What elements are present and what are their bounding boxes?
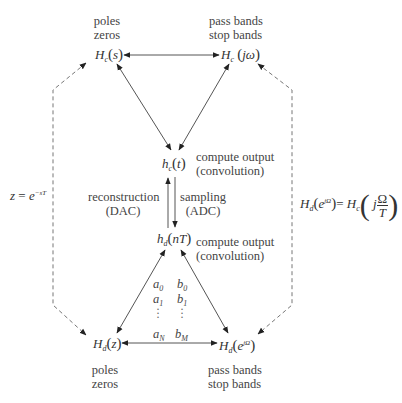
label-stop-bands-top: stop bands xyxy=(209,28,262,42)
node-hc-t: hc(t) xyxy=(162,156,186,176)
node-Hd-z: Hd(z) xyxy=(93,336,121,356)
vdots-b: ··· xyxy=(180,307,184,319)
label-stop-bands-bottom: stop bands xyxy=(208,377,261,391)
label-reconstruction: reconstruction xyxy=(88,190,158,204)
vdots-a: ··· xyxy=(156,307,160,319)
label-convolution-1: (convolution) xyxy=(196,164,264,178)
label-pass-bands-bottom: pass bands xyxy=(208,363,262,377)
dashed-arrow-left xyxy=(53,63,86,335)
label-dac: (DAC) xyxy=(88,204,158,218)
arrow-hcs-hct xyxy=(117,64,171,150)
label-pass-bands-top: pass bands xyxy=(209,14,263,28)
label-zeros-top: zeros xyxy=(92,28,122,42)
label-adc: (ADC) xyxy=(180,204,226,218)
label-compute-output-2: compute output xyxy=(196,235,274,249)
label-poles-bottom: poles xyxy=(90,363,120,377)
node-Hd-ejOmega: Hd(ejΩ) xyxy=(219,336,255,358)
node-Hc-jw: Hc (jω) xyxy=(221,47,260,67)
node-hd-nT: hd(nT) xyxy=(157,231,191,251)
label-poles-top: poles xyxy=(92,14,122,28)
label-convolution-2: (convolution) xyxy=(196,249,264,263)
coef-aN: aN xyxy=(153,327,165,346)
coef-bM: bM xyxy=(175,327,188,346)
dsp-relationship-diagram: poles zeros pass bands stop bands Hc(s) … xyxy=(0,0,402,403)
equation-z-mapping: z = e−sT xyxy=(10,186,46,203)
dashed-arrow-right xyxy=(258,64,292,334)
label-compute-output-1: compute output xyxy=(196,150,274,164)
label-sampling: sampling xyxy=(180,190,226,204)
node-Hc-s: Hc(s) xyxy=(95,47,123,67)
equation-frequency-mapping: Hd(ejΩ)= Hc( jΩT) xyxy=(300,186,398,222)
label-zeros-bottom: zeros xyxy=(90,377,120,391)
arrow-hcjw-hct xyxy=(179,64,229,150)
